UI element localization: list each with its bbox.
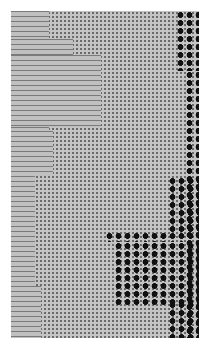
stripe-band-lower	[11, 176, 35, 286]
stripe-band-wide	[11, 55, 101, 127]
stripe-band-bottom	[11, 286, 41, 338]
big-dot-block-mid	[168, 177, 199, 237]
pattern-canvas	[11, 11, 199, 338]
big-dot-block-bottom	[114, 242, 199, 306]
big-dot-row	[105, 232, 199, 242]
big-dot-column-right-top	[176, 11, 199, 71]
stripe-band-mid2	[11, 131, 53, 176]
big-dot-block-corner	[168, 301, 199, 338]
